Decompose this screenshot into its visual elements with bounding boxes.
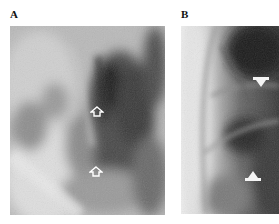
solid-arrow-up-icon: [244, 170, 262, 182]
panel-b-label: B: [181, 9, 188, 20]
open-arrow-up-icon: [90, 106, 104, 117]
panel-b-image: [181, 26, 279, 214]
solid-arrow-down-icon: [252, 76, 270, 88]
open-arrow-up-icon: [89, 166, 103, 177]
panel-a-image: [10, 26, 165, 215]
panel-a-label: A: [10, 9, 18, 20]
